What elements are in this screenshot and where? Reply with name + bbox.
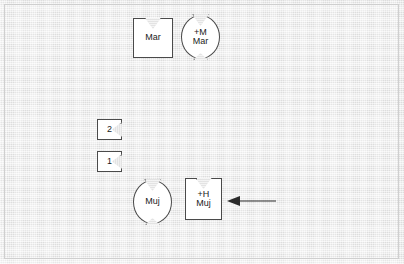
shape-tab-1-label: 1	[107, 157, 112, 166]
shape-plus-h-muj-label-2: Muj	[196, 199, 211, 208]
diagram-canvas: Mar +M Mar 2 1 Muj +H Muj	[0, 0, 404, 264]
shape-tab-2-label: 2	[107, 125, 112, 134]
shape-tab-1[interactable]: 1	[97, 151, 122, 172]
notch-bottom-icon	[145, 218, 160, 225]
notch-top-icon	[192, 14, 209, 26]
notch-bottom-icon	[193, 53, 208, 60]
arrow-left-icon	[227, 195, 277, 207]
shape-plus-h-muj-square[interactable]: +H Muj	[185, 178, 222, 220]
shape-mar-square[interactable]: Mar	[133, 18, 173, 58]
shape-tab-2[interactable]: 2	[97, 119, 122, 140]
shape-muj-circle[interactable]: Muj	[133, 180, 172, 224]
shape-muj-label: Muj	[145, 197, 160, 206]
shape-plus-m-mar-label-2: Mar	[193, 37, 209, 46]
shape-plus-m-mar-circle[interactable]: +M Mar	[181, 15, 220, 59]
shape-mar-square-label-1: Mar	[145, 33, 161, 42]
notch-top-icon	[144, 179, 161, 191]
pointer-arrow	[227, 193, 277, 211]
